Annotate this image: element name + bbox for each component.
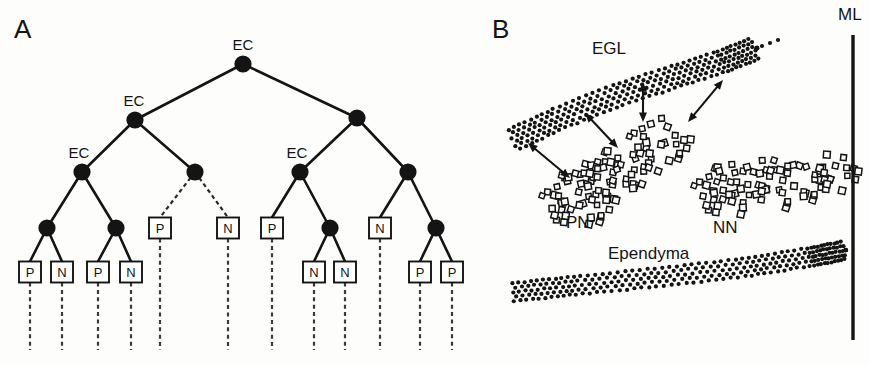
band-dot: [575, 278, 579, 282]
band-dot: [691, 80, 695, 84]
band-dot: [799, 247, 803, 251]
band-dot: [578, 116, 582, 120]
band-dot: [627, 274, 631, 278]
band-dot: [688, 276, 692, 280]
panel-b-label: B: [492, 14, 509, 44]
band-dot: [746, 269, 750, 273]
band-dot: [583, 278, 587, 282]
band-dot: [701, 265, 705, 269]
nn-cell: [784, 170, 791, 177]
band-dot: [522, 120, 526, 124]
nn-cell: [855, 168, 862, 175]
band-dot: [669, 82, 673, 86]
band-dot: [616, 270, 620, 274]
band-dot: [719, 259, 723, 263]
band-dot: [515, 133, 519, 137]
band-dot: [518, 146, 522, 150]
leaf-box-text: P: [26, 265, 35, 280]
band-dot: [623, 97, 627, 101]
band-dot: [595, 94, 599, 98]
band-dot: [654, 92, 658, 96]
band-dot: [524, 144, 528, 148]
tree-node-dot: [107, 219, 124, 236]
band-dot: [677, 282, 681, 286]
band-dot: [564, 120, 568, 124]
band-dot: [674, 67, 678, 71]
band-dot: [576, 101, 580, 105]
nn-cell: [771, 157, 778, 164]
band-dot: [515, 139, 519, 143]
band-dot: [648, 76, 652, 80]
band-dot: [566, 115, 570, 119]
band-dot: [627, 100, 631, 104]
band-dot: [621, 89, 625, 93]
band-dot: [725, 46, 729, 50]
band-dot: [771, 257, 775, 261]
band-dot: [530, 137, 534, 141]
band-dot: [546, 110, 550, 114]
band-dot: [582, 100, 586, 104]
band-dot: [724, 263, 728, 267]
band-dot: [564, 102, 568, 106]
leaf-box-text: P: [416, 265, 425, 280]
band-dot: [512, 125, 516, 129]
band-dot: [631, 77, 635, 81]
band-dot: [657, 68, 661, 72]
band-dot: [665, 279, 669, 283]
band-dot: [769, 270, 773, 274]
band-dot: [672, 278, 676, 282]
band-dot: [662, 284, 666, 288]
band-dot: [542, 126, 546, 130]
band-dot: [686, 267, 690, 271]
band-dot: [628, 283, 632, 287]
band-dot: [512, 299, 516, 303]
tree-node-label: EC: [287, 144, 308, 161]
band-dot: [834, 250, 838, 254]
band-dot: [789, 267, 793, 271]
band-dot: [738, 41, 742, 45]
band-dot: [729, 275, 733, 279]
band-dot: [721, 277, 725, 281]
band-dot: [548, 123, 552, 127]
pn-cell: [606, 206, 613, 213]
band-dot: [816, 245, 820, 249]
band-dot: [554, 277, 558, 281]
figure-canvas: A PNPNPNPNNNPP ECECECEC B EGL PN NN Epen…: [0, 0, 870, 365]
band-dot: [747, 256, 751, 260]
band-dot: [734, 258, 738, 262]
nn-cell: [720, 175, 726, 181]
band-dot: [599, 286, 603, 290]
band-dot: [663, 66, 667, 70]
band-dot: [745, 260, 749, 264]
band-dot: [615, 86, 619, 90]
band-dot: [639, 277, 643, 281]
band-dot: [540, 112, 544, 116]
pn-cell: [635, 144, 641, 150]
band-dot: [707, 278, 711, 282]
band-dot: [675, 81, 679, 85]
band-dot: [520, 284, 524, 288]
band-dot: [525, 133, 529, 137]
band-dot: [702, 275, 706, 279]
band-dot: [535, 278, 539, 282]
nn-cell: [776, 166, 784, 174]
band-dot: [516, 128, 520, 132]
band-dot: [698, 270, 702, 274]
pn-cell: [604, 148, 611, 155]
band-dot: [602, 91, 606, 95]
nn-cell: [779, 177, 786, 184]
band-dot: [787, 258, 791, 262]
band-dot: [704, 261, 708, 265]
band-dot: [765, 266, 769, 270]
pn-cell: [638, 180, 646, 188]
band-dot: [532, 283, 536, 287]
band-dot: [710, 274, 714, 278]
band-dot: [667, 88, 671, 92]
band-dot: [594, 282, 598, 286]
band-dot: [513, 286, 517, 290]
band-dot: [618, 288, 622, 292]
nn-cell: [845, 173, 850, 178]
band-dot: [580, 104, 584, 108]
pn-cell: [539, 193, 545, 199]
band-dot: [624, 79, 628, 83]
